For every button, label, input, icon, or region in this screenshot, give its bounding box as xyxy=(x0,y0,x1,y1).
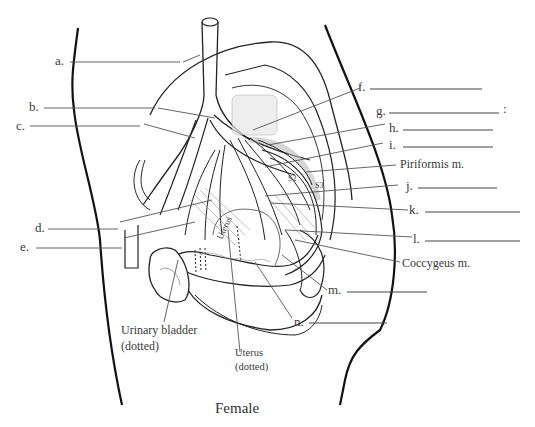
label-e: e. xyxy=(20,240,29,253)
pubic-bone xyxy=(149,248,189,302)
label-n: n. xyxy=(294,315,304,328)
urinary-bladder-label-2: (dotted) xyxy=(121,339,159,353)
label-c: c. xyxy=(16,119,25,132)
label-j: j. xyxy=(406,179,413,192)
body-outline-left xyxy=(72,28,122,405)
label-a: a. xyxy=(55,54,64,67)
label-b: b. xyxy=(29,100,39,113)
coccygeus-label: Coccygeus m. xyxy=(402,256,470,270)
label-h: h. xyxy=(389,121,399,134)
uterus-label-2: (dotted) xyxy=(235,360,268,373)
label-m: m. xyxy=(328,283,341,296)
label-l: l. xyxy=(413,232,420,245)
svg-text:S2: S2 xyxy=(288,174,296,183)
label-g: g. xyxy=(376,104,386,117)
label-g-colon: : xyxy=(503,102,507,115)
label-k: k. xyxy=(409,203,419,216)
uterus-label-1: Uterus xyxy=(235,346,263,359)
figure-caption: Female xyxy=(215,400,259,417)
piriformis-label: Piriformis m. xyxy=(400,157,464,171)
label-i: i. xyxy=(389,138,396,151)
urinary-bladder-label-1: Urinary bladder xyxy=(121,323,197,337)
svg-text:S3: S3 xyxy=(315,181,323,190)
label-f: f. xyxy=(358,80,366,93)
label-d: d. xyxy=(35,221,45,234)
